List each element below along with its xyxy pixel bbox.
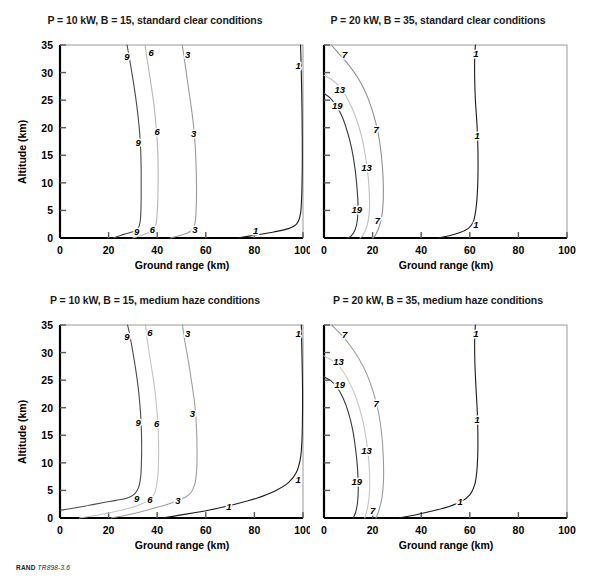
- x-tick-label: 100: [558, 524, 576, 536]
- contour-label: 7: [370, 505, 376, 516]
- contour-label: 1: [474, 130, 479, 141]
- contour-label: 3: [185, 49, 191, 60]
- contour-label: 1: [473, 219, 478, 230]
- y-tick-label: 25: [41, 94, 53, 106]
- contour-label: 19: [335, 379, 346, 390]
- contour-label: 19: [332, 100, 343, 111]
- x-tick-label: 20: [367, 524, 379, 536]
- contour-label: 7: [342, 329, 348, 340]
- x-tick-label: 60: [200, 524, 212, 536]
- y-tick-label: 5: [47, 484, 53, 496]
- panel-bottom-left: P = 10 kW, B = 15, medium haze condition…: [0, 294, 310, 569]
- x-tick-label: 100: [558, 244, 576, 256]
- contour-label: 6: [150, 224, 156, 235]
- contour-label: 7: [374, 124, 380, 135]
- figure-contour-grid: P = 10 kW, B = 15, standard clear condit…: [0, 0, 593, 579]
- plot-area-top-left: 0510152025303502040608010099663311996633…: [0, 14, 310, 289]
- contour-label: 1: [457, 496, 462, 507]
- x-tick-label: 20: [367, 244, 379, 256]
- contour-label: 13: [361, 445, 372, 456]
- contour-label: 6: [148, 47, 154, 58]
- plot-area-top-right: 0204060801007713131919771313191977111111: [283, 14, 593, 289]
- x-axis-title-bottom-right: Ground range (km): [324, 539, 568, 551]
- panel-top-right: P = 20 kW, B = 35, standard clear condit…: [283, 14, 593, 289]
- contour-label: 19: [352, 476, 363, 487]
- contour-label: 6: [147, 327, 153, 338]
- contour-label: 9: [136, 137, 142, 148]
- y-tick-label: 0: [47, 512, 53, 524]
- x-tick-label: 40: [415, 244, 427, 256]
- x-axis-title-top-right: Ground range (km): [324, 259, 568, 271]
- x-tick-label: 40: [151, 244, 163, 256]
- source-note-prefix: RAND: [16, 564, 36, 571]
- contour-plot-svg: 0510152025303502040608010099663311996633…: [0, 14, 310, 289]
- y-tick-label: 30: [41, 347, 53, 359]
- contour-label: 6: [154, 418, 160, 429]
- x-tick-label: 60: [464, 524, 476, 536]
- x-tick-label: 0: [57, 524, 63, 536]
- contour-label: 9: [136, 417, 142, 428]
- x-axis-title-top-left: Ground range (km): [60, 259, 304, 271]
- x-tick-label: 80: [249, 244, 261, 256]
- plot-frame: [324, 325, 567, 518]
- x-tick-label: 60: [200, 244, 212, 256]
- contour-plot-svg: 0510152025303502040608010099663311996633…: [0, 294, 310, 569]
- contour-label: 1: [226, 501, 231, 512]
- contour-label: 9: [134, 493, 140, 504]
- contour-label: 3: [191, 128, 197, 139]
- contour-label: 9: [124, 51, 130, 62]
- contour-label: 9: [124, 331, 130, 342]
- contour-label: 13: [361, 162, 372, 173]
- x-tick-label: 20: [103, 244, 115, 256]
- contour-label: 1: [253, 225, 258, 236]
- plot-area-bottom-left: 0510152025303502040608010099663311996633…: [0, 294, 310, 569]
- contour-label: 13: [335, 84, 346, 95]
- contour-label: 6: [155, 126, 161, 137]
- contour-label: 7: [374, 398, 380, 409]
- x-tick-label: 0: [321, 244, 327, 256]
- y-tick-label: 5: [47, 204, 53, 216]
- contour-label: 13: [333, 356, 344, 367]
- x-tick-label: 80: [249, 524, 261, 536]
- contour-label: 7: [375, 215, 381, 226]
- x-tick-label: 40: [415, 524, 427, 536]
- y-tick-label: 15: [41, 149, 53, 161]
- x-tick-label: 40: [151, 524, 163, 536]
- x-tick-label: 60: [464, 244, 476, 256]
- panel-top-left: P = 10 kW, B = 15, standard clear condit…: [0, 14, 310, 289]
- y-axis-title-top-left: Altitude (km): [16, 120, 28, 184]
- y-tick-label: 15: [41, 429, 53, 441]
- y-tick-label: 0: [47, 232, 53, 244]
- y-axis-title-bottom-left: Altitude (km): [16, 400, 28, 464]
- contour-label: 3: [192, 224, 198, 235]
- contour-label: 19: [352, 204, 363, 215]
- y-tick-label: 30: [41, 67, 53, 79]
- plot-area-bottom-right: 0204060801007713131919771313191977111111: [283, 294, 593, 569]
- plot-frame: [60, 45, 303, 238]
- contour-label: 3: [190, 408, 196, 419]
- contour-label: 9: [134, 226, 140, 237]
- contour-label: 1: [474, 414, 479, 425]
- contour-plot-svg: 0204060801007713131919771313191977111111: [283, 14, 593, 289]
- plot-frame: [60, 325, 303, 518]
- contour-label: 1: [473, 48, 478, 59]
- x-tick-label: 80: [513, 524, 525, 536]
- contour-label: 1: [473, 328, 478, 339]
- source-note: RAND TR898-3.6: [16, 564, 70, 571]
- contour-label: 3: [185, 328, 191, 339]
- x-tick-label: 0: [57, 244, 63, 256]
- y-tick-label: 35: [41, 319, 53, 331]
- x-axis-title-bottom-left: Ground range (km): [60, 539, 304, 551]
- panel-bottom-right: P = 20 kW, B = 35, medium haze condition…: [283, 294, 593, 569]
- contour-label: 6: [147, 494, 153, 505]
- y-tick-label: 35: [41, 39, 53, 51]
- contour-label: 7: [342, 49, 348, 60]
- y-tick-label: 25: [41, 374, 53, 386]
- y-tick-label: 10: [41, 457, 53, 469]
- source-note-id: TR898-3.6: [38, 564, 71, 571]
- y-tick-label: 10: [41, 177, 53, 189]
- y-tick-label: 20: [41, 402, 53, 414]
- x-tick-label: 80: [513, 244, 525, 256]
- contour-label: 3: [175, 495, 181, 506]
- x-tick-label: 0: [321, 524, 327, 536]
